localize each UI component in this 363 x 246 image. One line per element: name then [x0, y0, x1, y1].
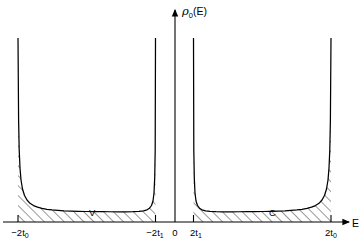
rho-argument: (E)	[193, 5, 207, 17]
density-of-states-figure: ρ0(E) E −2t0 −2t1 0 2t1 2t0 V C	[0, 0, 363, 246]
tick-base: 2t	[325, 227, 333, 238]
valence-band-label: V	[89, 208, 95, 218]
conduction-band-curve	[194, 38, 332, 212]
y-axis-title: ρ0(E)	[182, 6, 207, 18]
conduction-band-label: C	[269, 208, 276, 218]
tick-subscript: 0	[333, 232, 337, 239]
x-tick-label-pos-2t1: 2t1	[182, 228, 210, 238]
tick-subscript: 0	[25, 232, 29, 239]
x-tick-label-zero: 0	[168, 228, 182, 238]
tick-base: −2t	[146, 227, 159, 238]
tick-subscript: 1	[198, 232, 202, 239]
conduction-band-shading	[194, 38, 332, 222]
x-axis-title: E	[352, 218, 359, 229]
valence-band-shading	[18, 38, 156, 222]
x-tick-label-pos-2t0: 2t0	[316, 228, 346, 238]
dos-plot-svg	[0, 0, 363, 246]
tick-base: 0	[172, 227, 177, 238]
tick-subscript: 1	[160, 232, 164, 239]
rho-subscript: 0	[189, 11, 193, 20]
valence-band-curve	[18, 38, 156, 212]
x-tick-label-neg-2t1: −2t1	[139, 228, 171, 238]
x-tick-label-neg-2t0: −2t0	[4, 228, 36, 238]
tick-base: 2t	[190, 227, 198, 238]
tick-base: −2t	[11, 227, 24, 238]
rho-symbol: ρ	[182, 4, 189, 18]
